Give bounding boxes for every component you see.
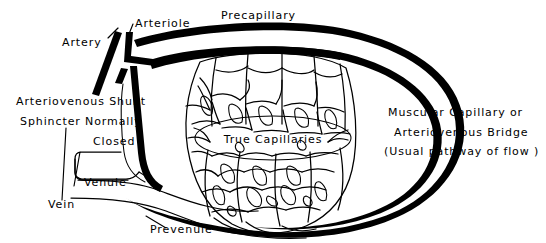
shunt-label-line1: Arteriovenous Shunt xyxy=(16,95,146,108)
arteriovenous-shunt-vessel xyxy=(121,66,163,192)
true-capillaries-callout: True Capillaries xyxy=(195,116,351,160)
leader-vein xyxy=(62,128,66,200)
arteriole-label: Arteriole xyxy=(135,17,190,30)
bridge-label-line2: Arteriovenous Bridge xyxy=(394,126,528,139)
bridge-label-line1: Muscular Capillary or xyxy=(388,106,523,119)
vein-label: Vein xyxy=(48,198,75,211)
prevenule-label: Prevenule xyxy=(150,223,213,236)
shunt-label-line2: Sphincter Normally xyxy=(20,115,142,128)
shunt-label-line3: Closed xyxy=(93,135,135,148)
venule-label: Venule xyxy=(84,176,127,189)
microcirculation-diagram: True Capillaries Artery Arteriole Precap… xyxy=(0,0,546,243)
true-capillaries-label: True Capillaries xyxy=(223,133,323,146)
bridge-label-line3: (Usual pathway of flow ) xyxy=(384,145,539,158)
artery-label: Artery xyxy=(62,36,102,49)
precapillary-label: Precapillary xyxy=(221,9,296,22)
diagram-canvas: True Capillaries Artery Arteriole Precap… xyxy=(0,0,546,243)
